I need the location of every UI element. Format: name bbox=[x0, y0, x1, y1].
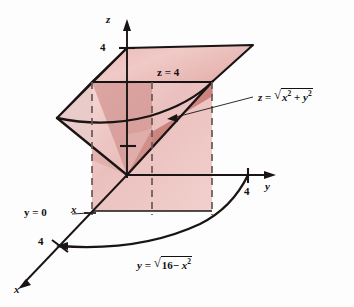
radical-sign-icon: √ bbox=[154, 255, 161, 271]
x-axis-label: x bbox=[14, 283, 20, 295]
plane-z4-label: z = 4 bbox=[157, 66, 179, 78]
cone-eq-radicand: x2 + y2 bbox=[281, 88, 313, 103]
boundary-eq-minus: − bbox=[173, 259, 179, 271]
cone-eq-equals: = bbox=[265, 91, 271, 103]
radical-sign-icon: √ bbox=[274, 87, 281, 103]
y-axis-arrowhead bbox=[264, 171, 276, 179]
y-axis-label: y bbox=[265, 180, 270, 192]
x-axis-origin-marker: x bbox=[71, 203, 77, 215]
z-axis-label: z bbox=[106, 13, 110, 25]
boundary-curve-equation-label: y = √ 16− x2 bbox=[137, 256, 192, 271]
boundary-eq-equals: = bbox=[145, 259, 151, 271]
boundary-eq-x-exponent: 2 bbox=[187, 257, 191, 266]
cone-eq-radical: √ x2 + y2 bbox=[274, 88, 313, 103]
cone-equation-label: z = √ x2 + y2 bbox=[258, 88, 313, 103]
cone-eq-plus: + bbox=[294, 91, 300, 103]
x-axis-line bbox=[24, 175, 127, 283]
y-axis-tick-label-4: 4 bbox=[244, 185, 250, 197]
boundary-eq-lhs: y bbox=[137, 259, 142, 271]
boundary-eq-const: 16 bbox=[162, 259, 173, 271]
z-axis-arrowhead bbox=[123, 19, 131, 31]
z-axis-tick-label-4: 4 bbox=[100, 41, 106, 53]
x-axis-tick-label-4: 4 bbox=[38, 235, 44, 247]
cone-eq-y-exponent: 2 bbox=[308, 89, 312, 98]
figure-container: z 4 y 4 x x 4 z = 4 y = 0 z = √ x2 + y2 … bbox=[0, 0, 354, 307]
cone-eq-lhs: z bbox=[258, 91, 262, 103]
boundary-eq-radicand: 16− x2 bbox=[161, 256, 192, 271]
cone-eq-x-exponent: 2 bbox=[288, 89, 292, 98]
boundary-eq-radical: √ 16− x2 bbox=[154, 256, 192, 271]
plane-y0-label: y = 0 bbox=[24, 206, 47, 218]
